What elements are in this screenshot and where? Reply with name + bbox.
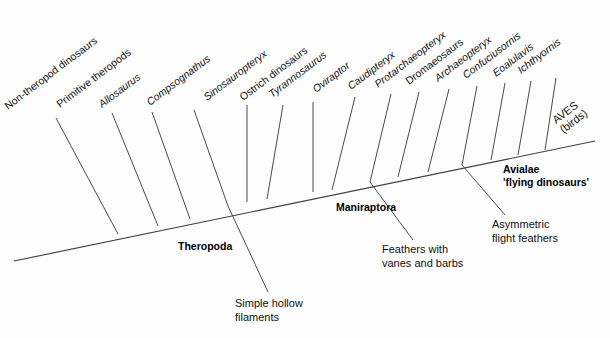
- branch-line-dromaeosaurs: [428, 89, 449, 172]
- branch-lines-group: [56, 78, 556, 234]
- branch-line-non-theropod-dinosaurs: [56, 118, 118, 234]
- taxon-label-sinosauropteryx: Sinosauropteryx: [201, 47, 269, 103]
- branch-line-eoalulavis: [518, 81, 531, 155]
- clade-label-maniraptora: Maniraptora: [336, 201, 396, 213]
- branch-line-ostrich-dinosaurs: [267, 105, 283, 199]
- taxon-label-non-theropod-dinosaurs: Non-theropod dinosaurs: [2, 34, 99, 111]
- annotation-feathers-with-vanes-and-barbs-line1: Feathers with: [382, 243, 448, 255]
- aves-label: AVES(birds): [550, 97, 589, 135]
- clade-label-avialae: Avialae'flying dinosaurs': [503, 163, 589, 188]
- branch-line-allosaurus: [152, 112, 190, 219]
- clade-label-avialae-line1: Avialae: [503, 163, 540, 175]
- clade-label-avialae-line2: 'flying dinosaurs': [503, 176, 589, 188]
- branch-line-oviraptor: [332, 97, 355, 190]
- annotation-simple-hollow-filaments-line1: Simple hollow: [235, 297, 303, 309]
- cladogram-canvas: Non-theropod dinosaursPrimitive theropod…: [0, 0, 610, 338]
- branch-line-primitive-theropods: [112, 113, 158, 226]
- taxon-labels-group: Non-theropod dinosaursPrimitive theropod…: [2, 28, 563, 112]
- clade-label-theropoda: Theropoda: [178, 240, 232, 252]
- branch-line-confuciusornis: [491, 83, 505, 160]
- cladogram-diagram: Non-theropod dinosaursPrimitive theropod…: [0, 0, 610, 338]
- annotation-asymmetric-flight-feathers-line2: flight feathers: [492, 232, 559, 244]
- annotation-simple-hollow-filaments-line2: filaments: [235, 311, 280, 323]
- leader-line-simple-hollow-filaments: [228, 206, 268, 292]
- annotation-asymmetric-flight-feathers-line1: Asymmetric: [492, 218, 550, 230]
- taxon-label-compsognathus: Compsognathus: [144, 52, 213, 108]
- annotation-labels-group: Simple hollowfilamentsFeathers withvanes…: [235, 218, 559, 323]
- annotation-simple-hollow-filaments: Simple hollowfilaments: [235, 297, 303, 323]
- annotation-asymmetric-flight-feathers: Asymmetricflight feathers: [492, 218, 559, 244]
- branch-line-caudipteryx: [370, 94, 391, 182]
- branch-line-protarchaeopteryx: [398, 92, 419, 177]
- branch-line-compsognathus: [194, 110, 228, 206]
- annotation-feathers-with-vanes-and-barbs: Feathers withvanes and barbs: [382, 243, 464, 269]
- aves-label-group: AVES(birds): [550, 97, 589, 135]
- branch-line-archaeopteryx: [462, 86, 477, 165]
- annotation-feathers-with-vanes-and-barbs-line2: vanes and barbs: [382, 257, 464, 269]
- leader-line-asymmetric-flight-feathers: [462, 165, 505, 215]
- clade-label-theropoda-line1: Theropoda: [178, 240, 232, 252]
- clade-label-maniraptora-line1: Maniraptora: [336, 201, 396, 213]
